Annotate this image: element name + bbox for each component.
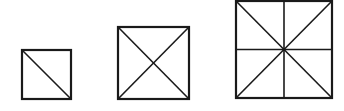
medium-square [118, 27, 189, 99]
squares-diagram [0, 0, 344, 111]
large-square [236, 1, 332, 98]
large-square-center-point [282, 48, 285, 51]
small-square-diagonal [22, 50, 71, 99]
small-square [22, 50, 71, 99]
